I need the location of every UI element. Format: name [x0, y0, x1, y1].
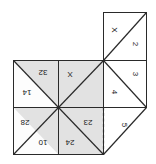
label-grid-14: 14: [23, 88, 32, 96]
label-grid-10: 10: [39, 138, 48, 146]
label-grid-x: X: [67, 70, 72, 78]
label-top-right-x: X: [110, 27, 118, 32]
label-top-right-2: 2: [131, 42, 139, 46]
label-right-5: 5: [120, 123, 128, 127]
centre-vertex-point: [57, 106, 60, 109]
label-grid-32: 32: [39, 68, 48, 76]
label-right-4: 4: [110, 90, 118, 94]
label-grid-28: 28: [21, 118, 30, 126]
label-grid-24: 24: [66, 138, 75, 146]
net-drawing: [0, 0, 156, 164]
label-grid-23: 23: [84, 118, 93, 126]
label-right-3: 3: [131, 72, 139, 76]
fortune-teller-net-diagram: X 2 3 4 5 32 14 X 28 10 23 24: [0, 0, 156, 164]
